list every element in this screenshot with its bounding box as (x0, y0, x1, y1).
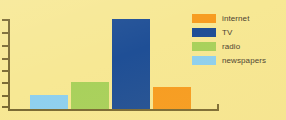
legend-item-radio[interactable]: radio (192, 39, 282, 53)
bar-chart-figure: internetTVradionewspapers (0, 0, 286, 120)
legend-swatch-internet (192, 14, 216, 23)
legend-swatch-TV (192, 28, 216, 37)
bar-radio (71, 82, 109, 109)
chart-legend: internetTVradionewspapers (192, 11, 282, 67)
legend-swatch-radio (192, 42, 216, 51)
bar-TV (112, 19, 150, 109)
legend-label-newspapers: newspapers (222, 56, 266, 65)
bar-newspapers (30, 95, 68, 109)
legend-label-internet: internet (222, 14, 249, 23)
legend-item-newspapers[interactable]: newspapers (192, 53, 282, 67)
legend-item-internet[interactable]: internet (192, 11, 282, 25)
legend-item-TV[interactable]: TV (192, 25, 282, 39)
legend-label-radio: radio (222, 42, 240, 51)
legend-swatch-newspapers (192, 56, 216, 65)
legend-label-TV: TV (222, 28, 232, 37)
bar-internet (153, 87, 191, 109)
